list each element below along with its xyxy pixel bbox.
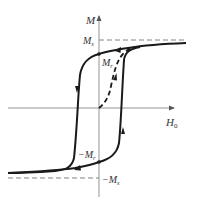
saturation-neg-label: −Ms [102, 174, 120, 186]
m-axis-label: M [85, 14, 96, 26]
arrow-upper-left-icon [114, 47, 121, 53]
remanence-pos-point [97, 52, 101, 56]
h-axis-label: H0 [165, 116, 178, 130]
remanence-pos-label: Mr [101, 57, 113, 69]
hysteresis-diagram: M H0 Ms Mr −Mr −Ms [0, 0, 199, 202]
saturation-pos-label: Ms [82, 35, 94, 47]
arrow-lower-up-icon [121, 127, 125, 134]
remanence-neg-label: −Mr [78, 149, 96, 161]
remanence-neg-point [97, 160, 101, 164]
